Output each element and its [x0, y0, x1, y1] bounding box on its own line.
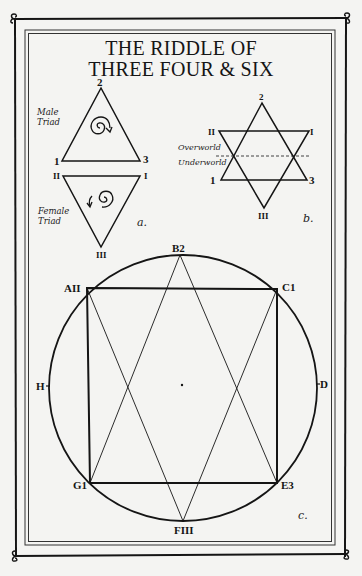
overworld-label: Overworld: [178, 143, 221, 153]
point-G1: G1: [73, 479, 87, 491]
female-triad-label: Female Triad: [38, 207, 69, 226]
clockwise-spiral-icon: [91, 117, 112, 134]
title-line-2: THREE FOUR & SIX: [0, 59, 362, 80]
point-H: H: [36, 380, 45, 392]
female-triad-triangle: [63, 176, 140, 247]
panel-c-caption: c.: [298, 509, 308, 522]
hexagram-vertex-III: III: [258, 210, 269, 222]
hexagram-vertex-2: 2: [259, 91, 264, 103]
point-AII: AII: [64, 282, 81, 294]
diagram-drawing: [0, 0, 362, 576]
point-FIII: FIII: [174, 524, 194, 536]
male-label-line-2: Triad: [37, 118, 60, 128]
underworld-label: Underworld: [178, 158, 227, 168]
page-title: THE RIDDLE OF THREE FOUR & SIX: [0, 38, 362, 80]
panel-a-caption: a.: [137, 216, 147, 229]
riddle-diagram-page: THE RIDDLE OF THREE FOUR & SIX 2 1 3 Mal…: [0, 0, 362, 576]
female-vertex-II: II: [53, 170, 60, 182]
corner-scroll-icons: [11, 13, 350, 561]
hexagram-vertex-1: 1: [210, 174, 216, 186]
female-vertex-I: I: [144, 170, 148, 182]
center-point: [181, 384, 183, 386]
hexagram-vertex-I: I: [310, 126, 314, 138]
title-line-1: THE RIDDLE OF: [0, 38, 362, 59]
point-C1: C1: [282, 281, 295, 293]
point-E3: E3: [281, 479, 294, 491]
male-triad-triangle: [62, 88, 140, 161]
male-vertex-3: 3: [143, 153, 149, 165]
hexagram-vertex-II: II: [208, 126, 215, 138]
inscribed-hexagram: [87, 255, 277, 521]
male-triad-label: Male Triad: [37, 108, 60, 127]
female-label-line-2: Triad: [38, 217, 69, 227]
hexagram-star: [219, 103, 309, 208]
point-D: D: [320, 378, 328, 390]
female-vertex-III: III: [96, 249, 107, 261]
male-vertex-1: 1: [54, 155, 60, 167]
counterclockwise-spiral-icon: [87, 191, 113, 207]
panel-b-caption: b.: [303, 212, 314, 225]
male-vertex-2: 2: [97, 76, 103, 88]
point-B2: B2: [172, 242, 185, 254]
hexagram-vertex-3: 3: [309, 174, 315, 186]
